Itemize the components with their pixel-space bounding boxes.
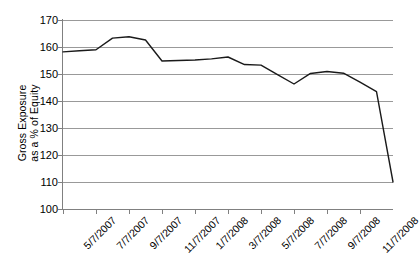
x-tick-label: 5/7/2008 bbox=[279, 214, 316, 251]
plot-area bbox=[63, 20, 393, 210]
x-tick-mark bbox=[96, 210, 97, 214]
x-tick-label: 11/7/2008 bbox=[379, 214, 420, 255]
gridline bbox=[63, 20, 393, 21]
x-tick-mark bbox=[129, 210, 130, 214]
x-tick-mark bbox=[228, 210, 229, 214]
gridline bbox=[63, 74, 393, 75]
y-tick-label: 150 bbox=[28, 68, 58, 80]
x-tick-mark bbox=[195, 210, 196, 214]
x-tick-label: 11/7/2007 bbox=[181, 214, 222, 255]
y-axis-line bbox=[62, 19, 63, 210]
y-tick-label: 140 bbox=[28, 95, 58, 107]
x-tick-mark bbox=[360, 210, 361, 214]
gridline bbox=[63, 155, 393, 156]
x-tick-label: 7/7/2007 bbox=[114, 214, 151, 251]
x-tick-mark bbox=[63, 210, 64, 214]
gridline bbox=[63, 182, 393, 183]
gridline bbox=[63, 101, 393, 102]
x-tick-label: 7/7/2008 bbox=[312, 214, 349, 251]
gridline bbox=[63, 47, 393, 48]
x-tick-mark bbox=[261, 210, 262, 214]
x-tick-mark bbox=[162, 210, 163, 214]
gridline bbox=[63, 128, 393, 129]
y-tick-label: 130 bbox=[28, 122, 58, 134]
y-axis-tick-labels: 170 160 150 140 130 120 110 100 bbox=[28, 0, 58, 278]
y-tick-label: 100 bbox=[28, 203, 58, 215]
x-tick-mark bbox=[327, 210, 328, 214]
y-tick-label: 120 bbox=[28, 149, 58, 161]
x-tick-mark bbox=[294, 210, 295, 214]
y-tick-label: 160 bbox=[28, 41, 58, 53]
x-tick-label: 3/7/2008 bbox=[246, 214, 283, 251]
y-tick-label: 110 bbox=[28, 176, 58, 188]
x-tick-label: 9/7/2008 bbox=[345, 214, 382, 251]
x-tick-label: 5/7/2007 bbox=[81, 214, 118, 251]
x-tick-label: 9/7/2007 bbox=[147, 214, 184, 251]
y-tick-label: 170 bbox=[28, 14, 58, 26]
